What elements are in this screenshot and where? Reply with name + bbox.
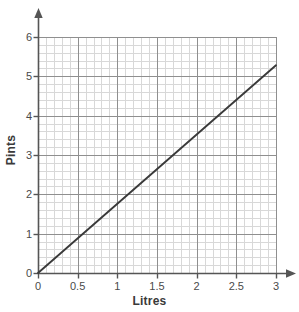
y-tick-label: 1 — [12, 228, 32, 240]
plot-area — [0, 0, 299, 312]
x-tick-label: 3 — [261, 280, 291, 292]
major-gridlines — [38, 37, 277, 274]
x-tick-label: 1 — [102, 280, 132, 292]
x-tick-label: 0.5 — [63, 280, 93, 292]
y-tick-label: 5 — [12, 70, 32, 82]
conversion-graph: 0123456 00.511.522.53 Pints Litres — [0, 0, 299, 312]
x-tick-label: 2 — [182, 280, 212, 292]
y-tick-label: 2 — [12, 188, 32, 200]
x-tick-label: 1.5 — [142, 280, 172, 292]
y-axis-title: Pints — [4, 120, 18, 180]
x-tick-label: 2.5 — [221, 280, 251, 292]
x-axis-title: Litres — [0, 294, 299, 308]
x-tick-label: 0 — [23, 280, 53, 292]
y-tick-label: 0 — [12, 267, 32, 279]
y-tick-label: 6 — [12, 31, 32, 43]
